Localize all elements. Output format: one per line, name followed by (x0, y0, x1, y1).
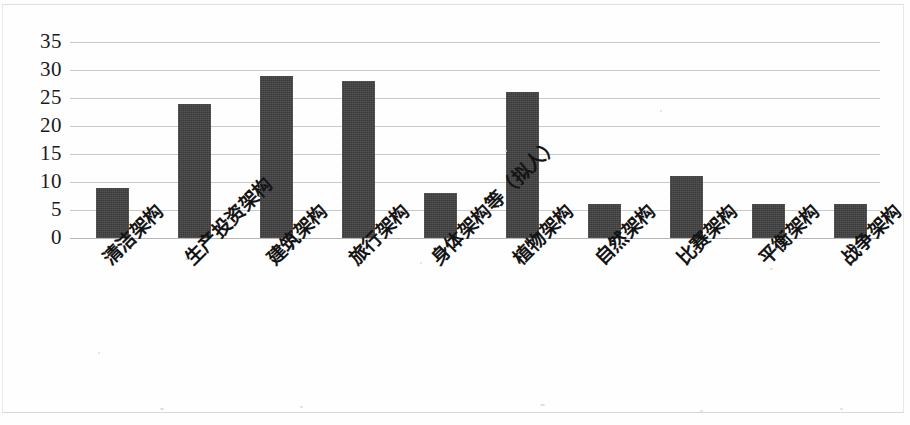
gridline-30 (70, 70, 880, 71)
y-tick-label-5: 5 (18, 199, 62, 220)
gridline-35 (70, 42, 880, 43)
bar-chart: 05101520253035 清洁架构生产投资架构建筑架构旅行架构身体架构等（拟… (0, 0, 910, 425)
bar-3 (260, 76, 293, 238)
y-tick-label-25: 25 (18, 87, 62, 108)
bar-2 (178, 104, 211, 238)
chart-page: 05101520253035 清洁架构生产投资架构建筑架构旅行架构身体架构等（拟… (0, 0, 910, 425)
y-tick-label-30: 30 (18, 59, 62, 80)
y-tick-label-15: 15 (18, 143, 62, 164)
y-tick-label-10: 10 (18, 171, 62, 192)
y-tick-label-35: 35 (18, 31, 62, 52)
gridline-25 (70, 98, 880, 99)
y-tick-label-20: 20 (18, 115, 62, 136)
gridline-0 (70, 238, 880, 239)
y-tick-label-0: 0 (18, 227, 62, 248)
bar-4 (342, 81, 375, 238)
